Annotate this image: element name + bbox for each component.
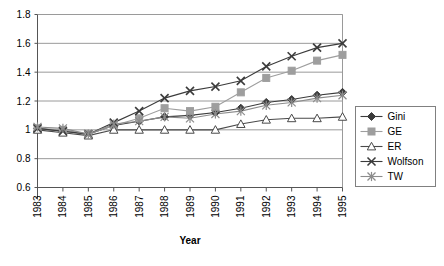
marker-square-icon [288, 67, 295, 74]
plot-frame [38, 15, 343, 200]
marker-square-icon [339, 51, 346, 58]
marker-x-icon [135, 107, 143, 115]
y-axis-tick-label: 1.4 [17, 67, 31, 78]
x-axis-tick-label: 1993 [286, 195, 297, 218]
x-axis-tick-label: 1991 [235, 195, 246, 218]
marker-square-icon [314, 57, 321, 64]
marker-square-icon [187, 108, 194, 115]
x-axis-tick-label: 1995 [337, 195, 348, 218]
x-axis-tick-label: 1987 [134, 195, 145, 218]
marker-x-icon [262, 62, 270, 70]
marker-triangle-icon [338, 113, 346, 121]
x-axis-tick-label: 1983 [32, 195, 43, 218]
y-axis-tick-label: 0.8 [17, 153, 31, 164]
marker-x-icon [288, 52, 296, 60]
y-axis-tick-label: 0.6 [17, 182, 31, 193]
legend-label-tw: TW [388, 171, 404, 182]
x-axis-tick-label: 1984 [57, 195, 68, 218]
legend-label-wolfson: Wolfson [388, 156, 424, 167]
marker-square-icon [161, 105, 168, 112]
x-axis: 1983198419851986198719881989199019911992… [32, 188, 348, 218]
x-axis-tick-label: 1986 [108, 195, 119, 218]
y-axis-tick-label: 1.6 [17, 38, 31, 49]
legend-label-er: ER [388, 141, 402, 152]
line-chart: 0.60.811.21.41.61.8198319841985198619871… [0, 0, 444, 266]
chart-legend: GiniGEERWolfsonTW [356, 107, 436, 187]
x-axis-tick-label: 1992 [261, 195, 272, 218]
marker-x-icon [237, 77, 245, 85]
x-axis-tick-label: 1988 [159, 195, 170, 218]
chart-container: 0.60.811.21.41.61.8198319841985198619871… [0, 0, 444, 266]
x-axis-tick-label: 1990 [210, 195, 221, 218]
marker-square-icon [368, 128, 375, 135]
x-axis-tick-label: 1989 [185, 195, 196, 218]
y-axis-tick-label: 1.2 [17, 96, 31, 107]
legend-label-ge: GE [388, 126, 403, 137]
marker-square-icon [237, 89, 244, 96]
marker-square-icon [263, 74, 270, 81]
y-axis-tick-label: 1.8 [17, 9, 31, 20]
y-axis-tick-label: 1 [25, 124, 31, 135]
legend-label-gini: Gini [388, 111, 406, 122]
x-axis-tick-label: 1985 [83, 195, 94, 218]
marker-square-icon [212, 103, 219, 110]
x-axis-title: Year [179, 235, 200, 246]
x-axis-tick-label: 1994 [312, 195, 323, 218]
